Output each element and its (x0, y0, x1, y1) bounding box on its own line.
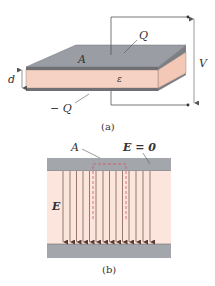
area-label-a: A (77, 53, 86, 66)
capacitor-3d-figure: A Q − Q d ε V (a) (8, 16, 208, 132)
field-e-label: E (51, 200, 61, 213)
top-terminal (187, 16, 190, 19)
separation-d-label: d (8, 73, 15, 86)
field-cross-section-figure: A E = 0 E (b) (47, 141, 171, 275)
charge-q-label: Q (139, 29, 148, 42)
field-zero-label: E = 0 (122, 141, 156, 154)
charge-minus-q-label: − Q (50, 102, 72, 115)
dielectric-front (26, 70, 158, 88)
bottom-terminal (187, 104, 190, 107)
top-plate-surface (26, 45, 186, 67)
area-label-b: A (70, 141, 79, 154)
bottom-plate-band (47, 244, 171, 258)
minus-q-leader (75, 94, 89, 103)
caption-b: (b) (102, 264, 116, 275)
bottom-wire (111, 90, 187, 105)
caption-a: (a) (101, 121, 115, 132)
permittivity-label: ε (117, 74, 122, 84)
voltage-label: V (199, 57, 208, 70)
bottom-plate-front (26, 88, 158, 91)
area-leader-b (82, 149, 100, 158)
top-plate-front (26, 67, 158, 70)
field-region (47, 171, 171, 244)
top-plate-band (47, 158, 171, 171)
